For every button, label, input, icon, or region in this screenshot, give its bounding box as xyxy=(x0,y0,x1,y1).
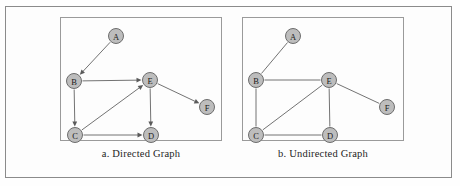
graph-node-A[interactable]: A xyxy=(109,29,124,44)
graph-node-B[interactable]: B xyxy=(249,73,264,88)
node-label-C: C xyxy=(72,131,78,141)
panel-caption-directed: a. Directed Graph xyxy=(60,148,222,159)
node-label-F: F xyxy=(385,103,390,113)
edge-C-E xyxy=(82,87,141,130)
edge-A-B xyxy=(82,42,110,72)
arrowhead-C-E xyxy=(138,85,143,90)
node-label-A: A xyxy=(290,32,297,42)
edge-B-E xyxy=(82,80,138,81)
node-label-F: F xyxy=(205,103,210,113)
panel-directed: ABCDEF xyxy=(60,17,222,141)
edge-A-B xyxy=(261,43,287,74)
graph-node-F[interactable]: F xyxy=(380,100,395,115)
node-label-B: B xyxy=(253,76,259,86)
graph-node-C[interactable]: C xyxy=(249,128,264,143)
graph-node-E[interactable]: E xyxy=(143,73,158,88)
edge-E-F xyxy=(158,84,197,102)
arrowhead-C-D xyxy=(138,133,143,138)
node-label-A: A xyxy=(113,32,120,42)
edge-C-E xyxy=(263,85,322,130)
arrowhead-E-D xyxy=(148,121,153,126)
edge-E-F xyxy=(337,84,380,104)
graph-node-E[interactable]: E xyxy=(322,73,337,88)
edge-E-D xyxy=(150,88,151,123)
arrowhead-B-E xyxy=(136,78,141,83)
node-label-D: D xyxy=(148,131,154,141)
graph-canvas-undirected: ABCDEF xyxy=(242,17,404,141)
edge-E-D xyxy=(329,88,330,126)
graph-node-C[interactable]: C xyxy=(68,128,83,143)
node-label-D: D xyxy=(327,131,333,141)
node-label-C: C xyxy=(253,131,259,141)
node-label-E: E xyxy=(147,76,152,86)
arrowhead-B-C xyxy=(72,121,77,126)
graph-node-D[interactable]: D xyxy=(144,128,159,143)
graph-node-D[interactable]: D xyxy=(323,128,338,143)
graph-node-F[interactable]: F xyxy=(200,100,215,115)
node-label-E: E xyxy=(326,76,331,86)
graph-canvas-directed: ABCDEF xyxy=(60,17,222,141)
graph-node-B[interactable]: B xyxy=(67,74,82,89)
edge-B-C xyxy=(74,89,75,123)
graph-figure: ABCDEFa. Directed GraphABCDEFb. Undirect… xyxy=(0,0,460,186)
node-label-B: B xyxy=(71,77,77,87)
panel-undirected: ABCDEF xyxy=(242,17,404,141)
panel-caption-undirected: b. Undirected Graph xyxy=(242,148,404,159)
graph-node-A[interactable]: A xyxy=(286,29,301,44)
